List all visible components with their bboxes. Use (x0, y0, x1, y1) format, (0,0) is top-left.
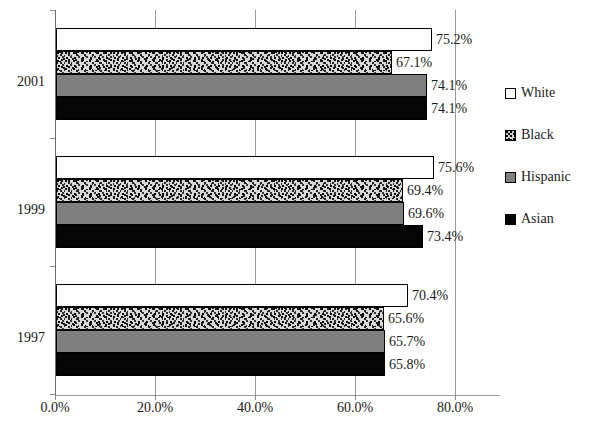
bar-1997-black[interactable] (56, 307, 384, 330)
legend-item-asian[interactable]: Asian (505, 198, 593, 240)
ytick-2 (50, 266, 55, 267)
bar-row-asian: 73.4% (56, 225, 500, 248)
bar-1997-hispanic[interactable] (56, 330, 385, 353)
legend-item-white[interactable]: White (505, 72, 593, 114)
xtick-label-20: 20.0% (137, 400, 173, 416)
bar-2001-hispanic[interactable] (56, 74, 427, 97)
bar-group-2001: 75.2% 67.1% 74.1% 74.1% (56, 28, 500, 120)
bar-row-white: 75.2% (56, 28, 500, 51)
legend-swatch-white-icon (505, 88, 516, 99)
bar-group-1999: 75.6% 69.4% 69.6% 73.4% (56, 156, 500, 248)
bar-2001-black[interactable] (56, 51, 392, 74)
bar-row-asian: 74.1% (56, 97, 500, 120)
xtick-label-60: 60.0% (337, 400, 373, 416)
xtick-label-80: 80.0% (437, 400, 473, 416)
legend-label-white: White (521, 85, 555, 101)
category-label-2001: 2001 (17, 74, 45, 90)
bar-value-1997-hispanic: 65.7% (385, 334, 425, 350)
legend: White Black Hispanic Asian (505, 72, 593, 240)
bar-1997-white[interactable] (56, 284, 408, 307)
bar-value-1999-white: 75.6% (434, 160, 474, 176)
bar-value-2001-white: 75.2% (432, 32, 472, 48)
category-label-1997: 1997 (17, 330, 45, 346)
bar-1997-asian[interactable] (56, 353, 385, 376)
bar-row-black: 69.4% (56, 179, 500, 202)
bar-1999-black[interactable] (56, 179, 403, 202)
bar-value-1999-hispanic: 69.6% (404, 206, 444, 222)
ytick-bottom (50, 394, 55, 395)
legend-item-black[interactable]: Black (505, 114, 593, 156)
bar-2001-white[interactable] (56, 28, 432, 51)
legend-swatch-black-icon (505, 130, 516, 141)
bar-row-white: 75.6% (56, 156, 500, 179)
bar-1999-hispanic[interactable] (56, 202, 404, 225)
bar-row-hispanic: 74.1% (56, 74, 500, 97)
ytick-top (50, 10, 55, 11)
bar-chart: 2001 1999 1997 75.2% 67.1 (0, 0, 593, 441)
legend-label-black: Black (521, 127, 554, 143)
xtick-label-0: 0.0% (40, 400, 69, 416)
category-label-1999: 1999 (17, 202, 45, 218)
bar-row-black: 67.1% (56, 51, 500, 74)
bar-1999-asian[interactable] (56, 225, 423, 248)
x-axis-tick-labels: 0.0% 20.0% 40.0% 60.0% 80.0% (55, 400, 500, 424)
xtick-label-40: 40.0% (237, 400, 273, 416)
x-axis-line (55, 395, 500, 396)
bar-value-1999-black: 69.4% (403, 183, 443, 199)
bar-row-asian: 65.8% (56, 353, 500, 376)
bar-value-1997-asian: 65.8% (385, 357, 425, 373)
bar-value-1997-white: 70.4% (408, 288, 448, 304)
legend-label-hispanic: Hispanic (521, 169, 571, 185)
bar-value-2001-asian: 74.1% (427, 101, 467, 117)
bar-row-black: 65.6% (56, 307, 500, 330)
bar-row-white: 70.4% (56, 284, 500, 307)
legend-item-hispanic[interactable]: Hispanic (505, 156, 593, 198)
legend-swatch-asian-icon (505, 214, 516, 225)
bar-1999-white[interactable] (56, 156, 434, 179)
bar-row-hispanic: 69.6% (56, 202, 500, 225)
bar-value-2001-hispanic: 74.1% (427, 78, 467, 94)
ytick-1 (50, 138, 55, 139)
bar-group-1997: 70.4% 65.6% 65.7% 65.8% (56, 284, 500, 376)
bar-value-2001-black: 67.1% (392, 55, 432, 71)
bar-row-hispanic: 65.7% (56, 330, 500, 353)
bar-value-1997-black: 65.6% (384, 311, 424, 327)
legend-label-asian: Asian (521, 211, 554, 227)
bar-2001-asian[interactable] (56, 97, 427, 120)
y-axis-category-labels: 2001 1999 1997 (0, 10, 55, 395)
plot-area: 75.2% 67.1% 74.1% 74.1% 75.6% (55, 10, 500, 395)
legend-swatch-hispanic-icon (505, 172, 516, 183)
bar-value-1999-asian: 73.4% (423, 229, 463, 245)
